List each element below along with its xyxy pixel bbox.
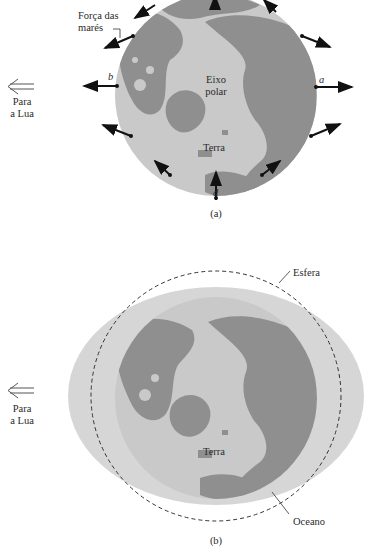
earth-label-b: Terra: [203, 446, 225, 458]
earth-globe-b: [115, 297, 317, 500]
polar-axis-label: Eixo polar: [200, 74, 232, 98]
arrow-lower-right: [311, 124, 340, 136]
caption-b: (b): [196, 535, 236, 547]
moon-direction-a-line1: Para: [0, 96, 44, 108]
arrow-upper-right: [302, 36, 330, 47]
earth-label-a: Terra: [203, 142, 225, 154]
caption-a: (a): [196, 208, 236, 220]
moon-direction-b-line1: Para: [0, 403, 44, 415]
tidal-force-label-line1: Força das: [78, 10, 119, 22]
sphere-label: Esfera: [293, 267, 320, 279]
point-a-label: a: [319, 74, 324, 86]
point-b-label: b: [108, 71, 113, 83]
polar-axis-line2: polar: [200, 86, 232, 98]
moon-direction-label-b: Para a Lua: [0, 403, 44, 427]
moon-direction-arrow-b: [8, 383, 34, 398]
ocean-label: Oceano: [293, 516, 325, 528]
moon-direction-a-line2: a Lua: [0, 108, 44, 120]
moon-direction-label-a: Para a Lua: [0, 96, 44, 120]
polar-axis-line1: Eixo: [200, 74, 232, 86]
tidal-force-label-line2: marés: [78, 22, 119, 34]
tidal-force-label: Força das marés: [78, 10, 119, 34]
moon-direction-arrow-a: [8, 79, 34, 94]
earth-globe-a: [115, 0, 317, 197]
moon-direction-b-line2: a Lua: [0, 415, 44, 427]
point-d-label: d: [213, 187, 218, 199]
